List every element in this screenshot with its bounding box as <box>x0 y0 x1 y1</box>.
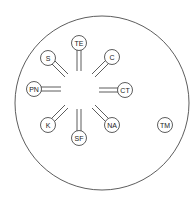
node-label: TE <box>75 40 84 47</box>
node-label: CT <box>120 87 130 94</box>
node-label: PN <box>29 86 39 93</box>
node-k: K <box>41 118 56 133</box>
spoke-s <box>52 61 68 77</box>
node-pn: PN <box>27 82 42 97</box>
spoke-c <box>92 61 108 77</box>
node-na: NA <box>105 118 120 133</box>
spoke-ct <box>99 88 118 92</box>
spoke-sf <box>77 109 81 131</box>
spoke-na <box>92 105 108 121</box>
node-s: S <box>41 51 56 66</box>
spoke-te <box>77 50 81 71</box>
outer-boundary <box>15 16 189 190</box>
hub-circle <box>62 72 98 108</box>
node-label: S <box>46 55 51 62</box>
diagram-canvas: TECCTNASFKPNSTM <box>0 0 196 200</box>
spoke-pn <box>41 87 61 91</box>
node-label: K <box>46 122 51 129</box>
node-label: SF <box>75 135 84 142</box>
node-label: NA <box>107 122 117 129</box>
node-label: TM <box>160 122 170 129</box>
node-c: C <box>105 50 120 65</box>
node-sf: SF <box>72 131 87 146</box>
spoke-k <box>52 105 68 121</box>
node-tm: TM <box>158 118 173 133</box>
node-label: C <box>109 54 114 61</box>
node-ct: CT <box>118 83 133 98</box>
node-te: TE <box>72 36 87 51</box>
